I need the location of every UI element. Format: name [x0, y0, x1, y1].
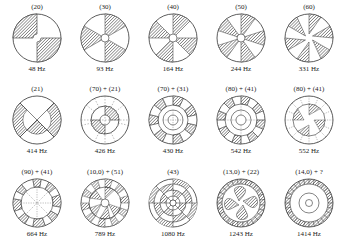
- mode-label: (13,0) + (22): [207, 168, 275, 176]
- mode-label: (40): [139, 3, 207, 11]
- mode-pattern-icon: [78, 176, 132, 230]
- mode-label: (60): [275, 3, 343, 11]
- mode-pattern-icon: [214, 11, 268, 65]
- mode-cell-70-31: (70) + (31) 430 Hz: [139, 85, 207, 155]
- mode-pattern-icon: [282, 93, 336, 147]
- mode-cell-50: (50) 244 Hz: [207, 3, 275, 73]
- mode-pattern-icon: [282, 11, 336, 65]
- frequency-label: 331 Hz: [275, 65, 343, 73]
- frequency-label: 1080 Hz: [139, 230, 207, 238]
- mode-cell-21: (21) 414 Hz: [3, 85, 71, 155]
- frequency-label: 93 Hz: [71, 65, 139, 73]
- mode-pattern-icon: [10, 93, 64, 147]
- mode-cell-40: (40) 164 Hz: [139, 3, 207, 73]
- mode-label: (80) + (41): [275, 85, 343, 93]
- frequency-label: 1414 Hz: [275, 230, 343, 238]
- mode-cell-90-41: (90) + (41) 664 Hz: [3, 168, 71, 238]
- mode-label: (70) + (31): [139, 85, 207, 93]
- mode-cell-14-0: (14,0) + ? 1414 Hz: [275, 168, 343, 238]
- mode-cell-80-41-b: (80) + (41) 552 Hz: [275, 85, 343, 155]
- mode-pattern-icon: [146, 11, 200, 65]
- mode-cell-10-0-51: (10,0) + (51) 789 Hz: [71, 168, 139, 238]
- mode-cell-70-21: (70) + (21) 426 Hz: [71, 85, 139, 155]
- mode-cell-80-41-a: (80) + (41) 542: [207, 85, 275, 155]
- mode-pattern-icon: [10, 11, 64, 65]
- mode-label: (14,0) + ?: [275, 168, 343, 176]
- mode-label: (20): [3, 3, 71, 11]
- mode-label: (50): [207, 3, 275, 11]
- mode-pattern-icon: [214, 176, 268, 230]
- mode-label: (43): [139, 168, 207, 176]
- frequency-label: 542 Hz: [207, 147, 275, 155]
- frequency-label: 1243 Hz: [207, 230, 275, 238]
- mode-pattern-icon: [282, 176, 336, 230]
- frequency-label: 430 Hz: [139, 147, 207, 155]
- frequency-label: 664 Hz: [3, 230, 71, 238]
- frequency-label: 164 Hz: [139, 65, 207, 73]
- frequency-label: 552 Hz: [275, 147, 343, 155]
- mode-pattern-icon: [78, 11, 132, 65]
- mode-cell-30: (30) 93 Hz: [71, 3, 139, 73]
- mode-cell-13-0-22: (13,0) + (22) 1243 Hz: [207, 168, 275, 238]
- frequency-label: 414 Hz: [3, 147, 71, 155]
- mode-cell-43: (43) 1080 Hz: [139, 168, 207, 238]
- mode-label: (21): [3, 85, 71, 93]
- mode-label: (90) + (41): [3, 168, 71, 176]
- frequency-label: 789 Hz: [71, 230, 139, 238]
- mode-label: (10,0) + (51): [71, 168, 139, 176]
- mode-pattern-icon: [146, 176, 200, 230]
- frequency-label: 48 Hz: [3, 65, 71, 73]
- mode-pattern-icon: [146, 93, 200, 147]
- mode-pattern-icon: [78, 93, 132, 147]
- mode-pattern-icon: [10, 176, 64, 230]
- mode-cell-60: (60) 331 Hz: [275, 3, 343, 73]
- frequency-label: 244 Hz: [207, 65, 275, 73]
- mode-label: (70) + (21): [71, 85, 139, 93]
- mode-label: (30): [71, 3, 139, 11]
- mode-cell-20: (20) 48 Hz: [3, 3, 71, 73]
- mode-pattern-icon: [214, 93, 268, 147]
- frequency-label: 426 Hz: [71, 147, 139, 155]
- mode-label: (80) + (41): [207, 85, 275, 93]
